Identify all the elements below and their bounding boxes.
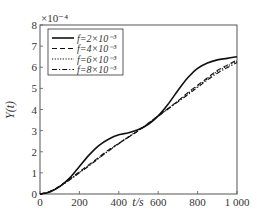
y-axis-multiplier: ×10⁻⁴: [41, 12, 68, 24]
x-tick-label: 600: [150, 196, 167, 208]
y-tick-label: 5: [32, 82, 38, 94]
series-line-4: [40, 63, 237, 194]
y-tick-label: 8: [32, 19, 38, 31]
legend-label: f=6×10⁻³: [77, 54, 117, 65]
legend-label: f=2×10⁻³: [77, 33, 117, 44]
legend: f=2×10⁻³f=4×10⁻³f=6×10⁻³f=8×10⁻³: [48, 29, 123, 75]
y-tick-label: 6: [32, 61, 38, 73]
legend-label: f=8×10⁻³: [77, 64, 117, 75]
y-tick-label: 7: [32, 40, 38, 52]
x-tick-label: 1 000: [225, 196, 250, 208]
x-tick-label: 200: [71, 196, 88, 208]
y-tick-label: 4: [32, 104, 38, 116]
y-tick-label: 1: [32, 167, 38, 179]
y-tick-label: 2: [32, 146, 38, 158]
line-chart: 02004006008001 000012345678 f=2×10⁻³f=4×…: [0, 0, 264, 210]
y-axis-label: Y(t): [3, 101, 17, 119]
x-axis-label: t/s: [132, 195, 144, 209]
y-tick-label: 0: [32, 188, 38, 200]
series-line-2: [40, 60, 237, 194]
legend-label: f=4×10⁻³: [77, 43, 117, 54]
x-tick-label: 0: [37, 196, 43, 208]
y-tick-label: 3: [32, 125, 38, 137]
series-line-3: [40, 61, 237, 194]
x-tick-label: 400: [111, 196, 128, 208]
plot-series: [40, 57, 237, 194]
x-tick-label: 800: [189, 196, 206, 208]
